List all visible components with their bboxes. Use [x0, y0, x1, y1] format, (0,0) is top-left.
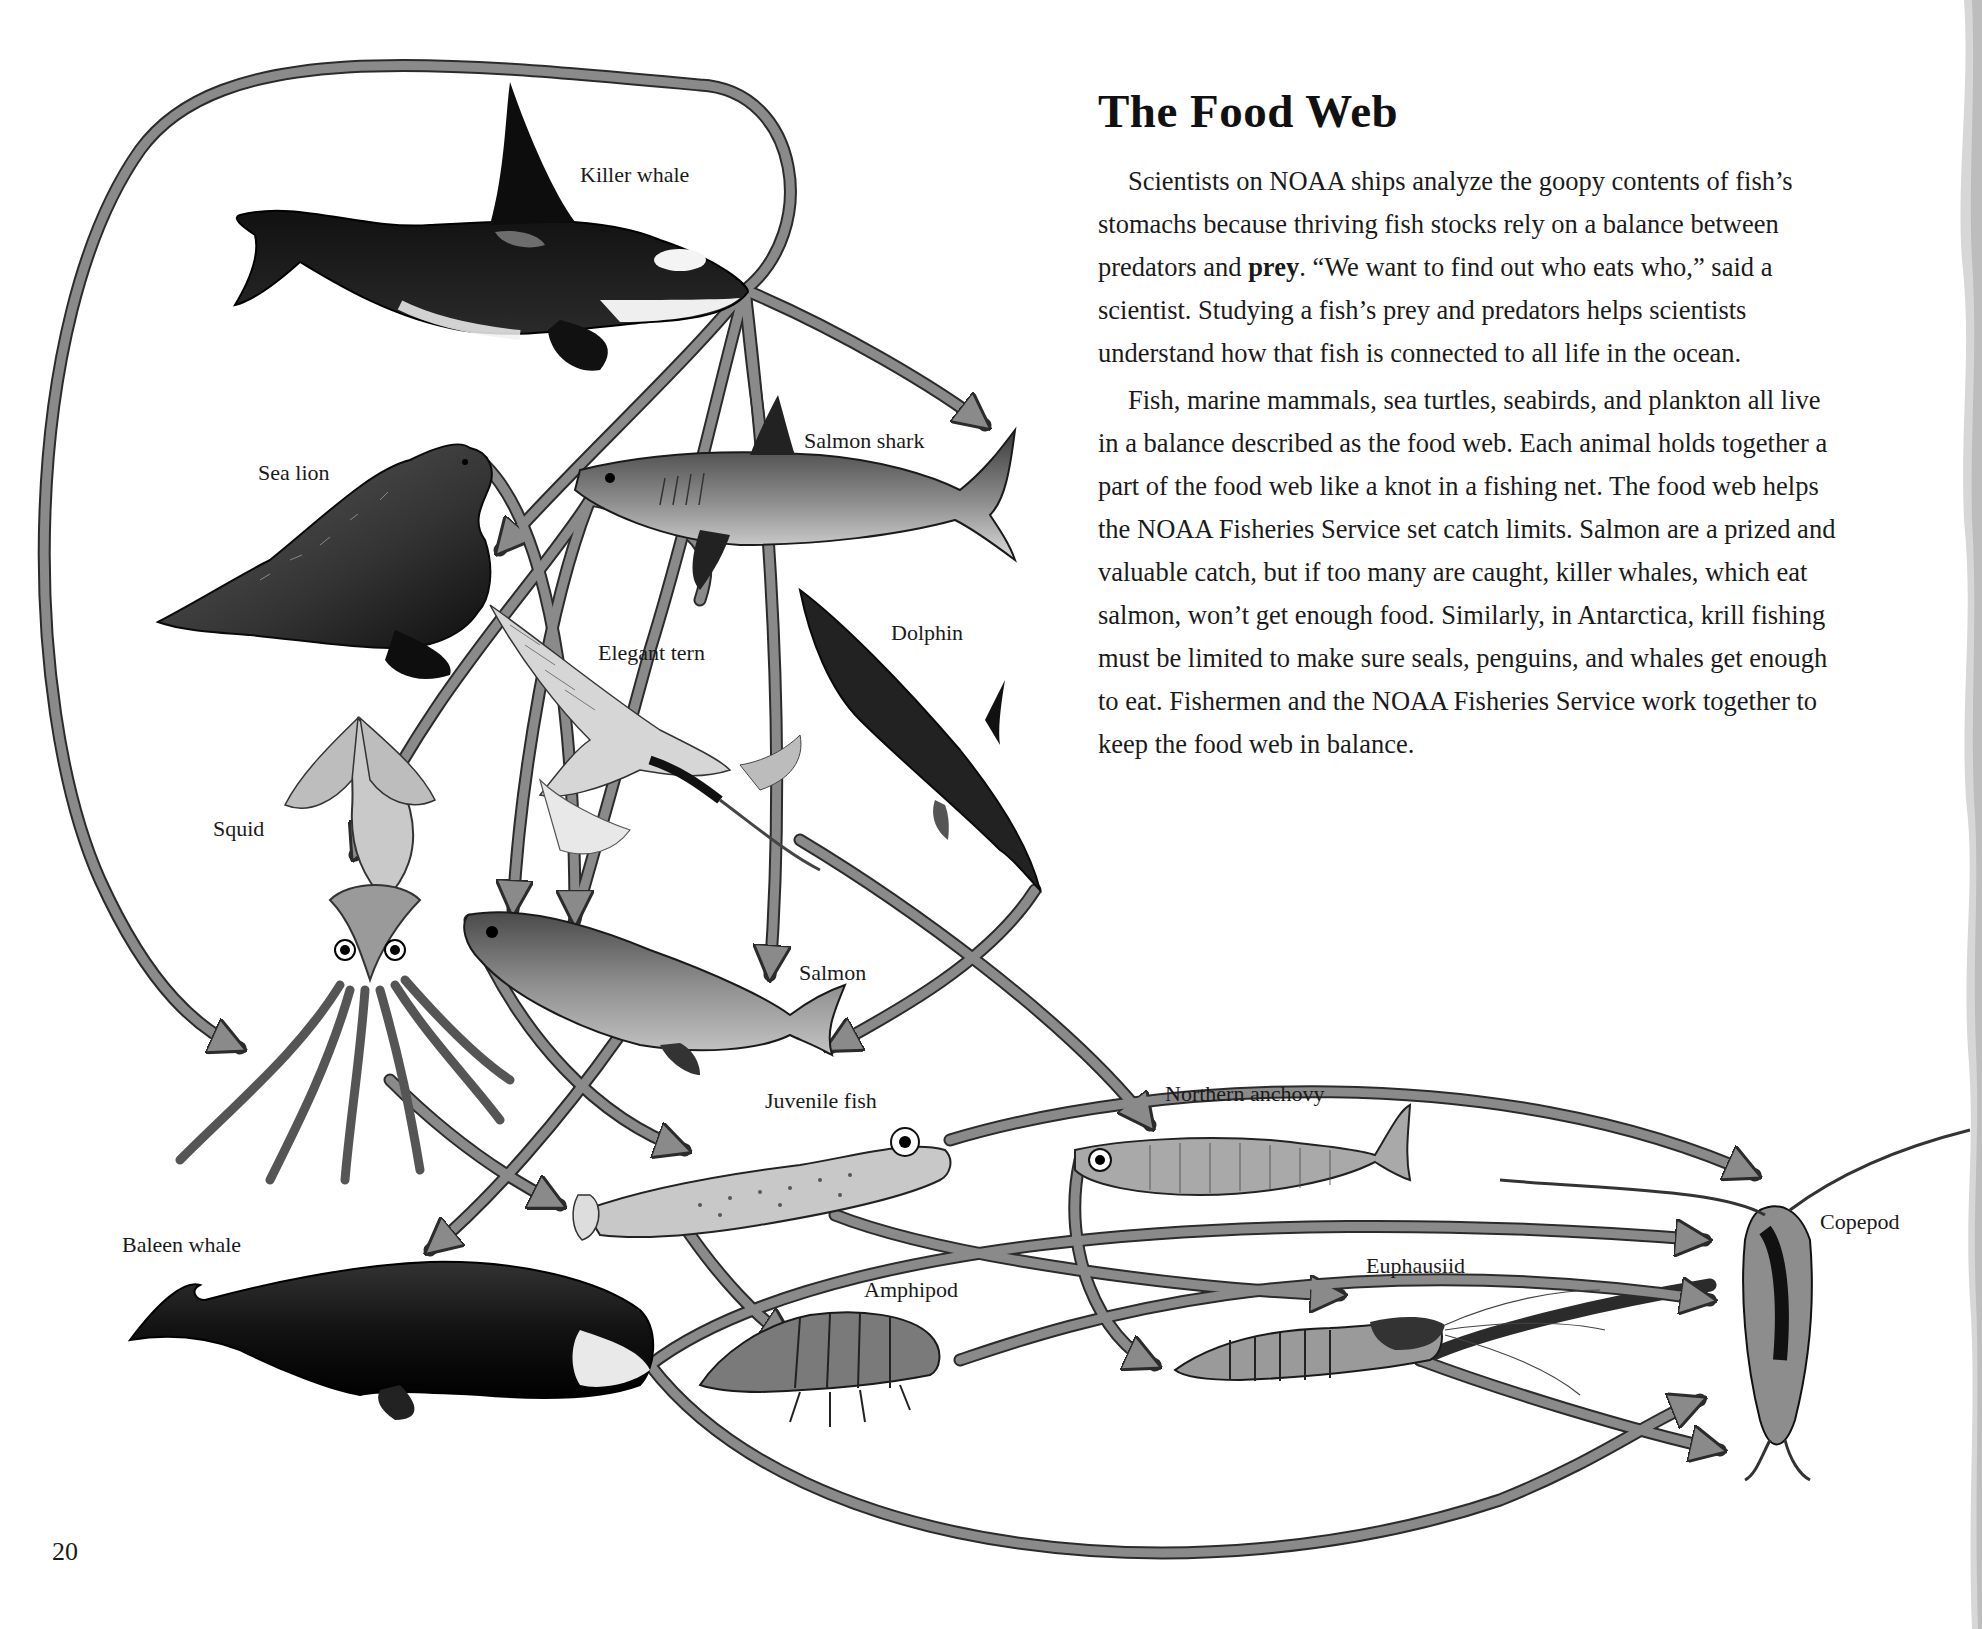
copepod-illustration [1500, 1130, 1970, 1480]
label-squid: Squid [213, 816, 264, 842]
baleen-whale-illustration [130, 1262, 653, 1420]
paragraph-1: Scientists on NOAA ships analyze the goo… [1098, 160, 1838, 375]
label-baleen-whale: Baleen whale [122, 1232, 241, 1258]
book-page: Killer whale Salmon shark Sea lion Dolph… [0, 0, 1982, 1629]
salmon-illustration [464, 912, 845, 1075]
label-euphausiid: Euphausiid [1366, 1253, 1465, 1279]
label-salmon: Salmon [799, 960, 866, 986]
article: The Food Web Scientists on NOAA ships an… [1098, 84, 1838, 766]
northern-anchovy-illustration [1075, 1105, 1410, 1195]
label-sea-lion: Sea lion [258, 460, 330, 486]
torn-paper-edge [1942, 0, 1982, 1629]
amphipod-illustration [700, 1312, 939, 1427]
label-northern-anchovy: Northern anchovy [1165, 1081, 1324, 1107]
squid-illustration [180, 718, 510, 1180]
euphausiid-illustration [1175, 1290, 1605, 1395]
salmon-shark-illustration [575, 395, 1015, 590]
killer-whale-illustration [235, 82, 748, 371]
page-title: The Food Web [1098, 84, 1838, 138]
paragraph-2: Fish, marine mammals, sea turtles, seabi… [1098, 379, 1838, 766]
page-number: 20 [52, 1537, 78, 1567]
label-amphipod: Amphipod [864, 1277, 958, 1303]
label-elegant-tern: Elegant tern [598, 640, 705, 666]
label-salmon-shark: Salmon shark [804, 428, 924, 454]
keyword-prey: prey [1248, 252, 1299, 282]
label-dolphin: Dolphin [891, 620, 963, 646]
label-juvenile-fish: Juvenile fish [765, 1088, 877, 1114]
juvenile-fish-illustration [573, 1128, 950, 1240]
label-copepod: Copepod [1820, 1209, 1899, 1235]
label-killer-whale: Killer whale [580, 162, 689, 188]
